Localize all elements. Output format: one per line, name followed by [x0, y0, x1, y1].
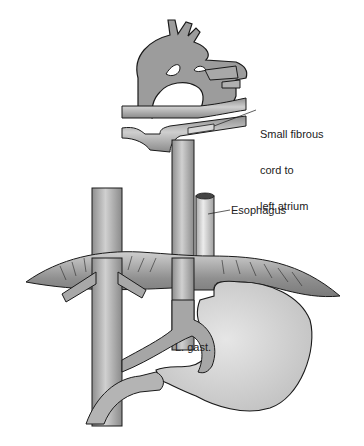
- left-gastric-label: L. gast.: [175, 341, 211, 353]
- inferior-vena-cava: [92, 188, 122, 258]
- descending-aorta: [172, 140, 194, 258]
- esophagus: [196, 193, 230, 258]
- esophagus-label: Esophagus: [231, 204, 286, 216]
